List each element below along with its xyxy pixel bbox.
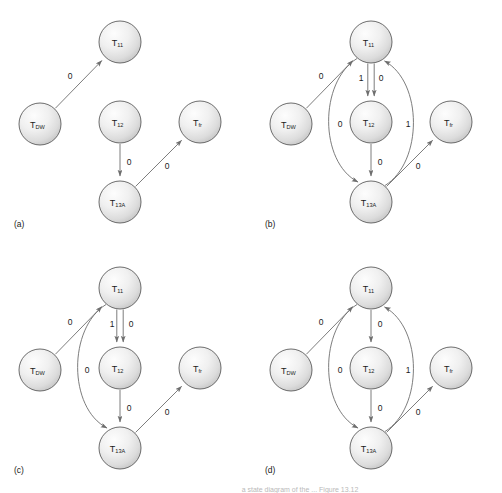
node-Tfr: Tfr [179, 347, 221, 389]
panel-c: 010000T11T12T13ATDWTfr(c) [14, 267, 221, 475]
node-label-subscript: 12 [368, 122, 374, 128]
node-label-subscript: DW [36, 370, 46, 376]
node-T12: T12 [350, 101, 392, 143]
node-label-subscript: 13A [366, 202, 376, 208]
node-TDW: TDW [19, 103, 61, 145]
edge-label: 0 [68, 71, 73, 81]
node-TDW: TDW [19, 349, 61, 391]
node-label-subscript: fr [450, 122, 454, 128]
panel-b: 0100010T11T12T13ATDWTfr(b) [265, 21, 472, 229]
edge-label: 0 [378, 157, 383, 167]
node-label-subscript: DW [36, 124, 46, 130]
edge-label: 0 [127, 403, 132, 413]
panel-caption-b: (b) [265, 219, 276, 229]
edge-label: 1 [359, 73, 364, 83]
node-label-subscript: 11 [368, 288, 374, 294]
edge-t13a-to-tfr [136, 386, 182, 432]
node-T13A: T13A [350, 427, 392, 469]
node-label-subscript: DW [287, 370, 297, 376]
node-label-subscript: 13A [366, 448, 376, 454]
node-label-subscript: 13A [115, 448, 125, 454]
state-diagram-figure: 000T11T12T13ATDWTfr(a)0100010T11T12T13AT… [0, 0, 502, 493]
edge-t13a-to-tfr [387, 140, 433, 186]
edge-label: 0 [129, 319, 134, 329]
node-label-subscript: fr [199, 368, 203, 374]
node-T12: T12 [350, 347, 392, 389]
edge-label: 1 [110, 319, 115, 329]
node-TDW: TDW [270, 103, 312, 145]
edge-label: 0 [379, 73, 384, 83]
edge-label: 0 [319, 317, 324, 327]
edge-t13a-to-tfr [136, 140, 182, 186]
node-T13A: T13A [350, 181, 392, 223]
node-T12: T12 [99, 347, 141, 389]
panel-d: 000010T11T12T13ATDWTfr(d) [265, 267, 472, 475]
node-Tfr: Tfr [179, 101, 221, 143]
edge-label: 0 [378, 403, 383, 413]
node-label-subscript: 11 [117, 42, 123, 48]
edge-tdw-to-t11 [55, 61, 101, 109]
node-label-subscript: 11 [368, 42, 374, 48]
node-label-subscript: 13A [115, 202, 125, 208]
edge-label: 1 [406, 365, 411, 375]
node-label-subscript: DW [287, 124, 297, 130]
edge-label: 0 [378, 319, 383, 329]
node-label-subscript: 11 [117, 288, 123, 294]
node-Tfr: Tfr [430, 347, 472, 389]
edge-label: 0 [165, 407, 170, 417]
node-T13A: T13A [99, 181, 141, 223]
node-T13A: T13A [99, 427, 141, 469]
edge-label: 0 [416, 407, 421, 417]
node-T12: T12 [99, 101, 141, 143]
edge-label: 0 [85, 365, 90, 375]
edge-label: 0 [68, 317, 73, 327]
edge-label: 0 [338, 365, 343, 375]
node-label-subscript: fr [199, 122, 203, 128]
panel-caption-c: (c) [14, 465, 24, 475]
node-T11: T11 [99, 267, 141, 309]
edge-label: 0 [338, 119, 343, 129]
figure-caption: a state diagram of the ... Figure 13.12 [242, 486, 359, 493]
panel-caption-d: (d) [265, 465, 276, 475]
node-label-subscript: 12 [117, 368, 123, 374]
panel-a: 000T11T12T13ATDWTfr(a) [14, 21, 221, 229]
node-label-subscript: fr [450, 368, 454, 374]
edge-label: 1 [406, 119, 411, 129]
edge-label: 0 [319, 71, 324, 81]
figure-canvas: 000T11T12T13ATDWTfr(a)0100010T11T12T13AT… [0, 0, 502, 493]
node-T11: T11 [350, 21, 392, 63]
edge-label: 0 [165, 161, 170, 171]
node-Tfr: Tfr [430, 101, 472, 143]
edge-label: 0 [416, 161, 421, 171]
edge-label: 0 [127, 157, 132, 167]
node-T11: T11 [350, 267, 392, 309]
node-label-subscript: 12 [117, 122, 123, 128]
panel-caption-a: (a) [14, 219, 25, 229]
node-label-subscript: 12 [368, 368, 374, 374]
node-TDW: TDW [270, 349, 312, 391]
node-T11: T11 [99, 21, 141, 63]
edge-t13a-to-tfr [387, 386, 433, 432]
